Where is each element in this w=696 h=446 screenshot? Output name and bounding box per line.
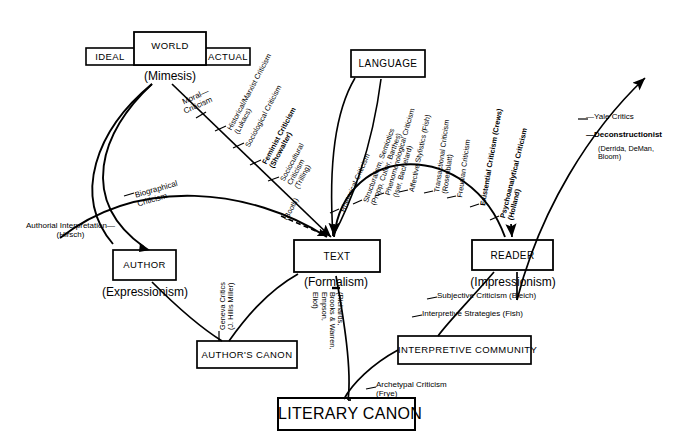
leader-archetypal	[366, 387, 376, 389]
label-deconstructionist-names: (Derrida, DeMan, Bloom)	[598, 145, 654, 161]
literary-canon-box-label: LITERARY CANON	[278, 405, 415, 423]
authors-canon-box-label: AUTHOR'S CANON	[197, 350, 297, 361]
leader-subjective	[427, 297, 437, 299]
label-archetypal-criticism: Archetypal Criticism (Frye)	[376, 381, 447, 399]
reader-box-label: READER	[472, 250, 553, 261]
world-to-author-arc	[92, 84, 152, 244]
interpretive-community-box-label: INTERPRETIVE COMMUNITY	[398, 345, 531, 356]
label-interpretive-strategies: Interpretive Strategies (Fish)	[422, 310, 523, 319]
ideal-label: IDEAL	[88, 52, 132, 63]
label-authorial-interpretation: Authorial Interpretation— (Hirsch)	[26, 222, 115, 240]
formalism-label: (Formalism)	[286, 276, 386, 289]
leader-interpretive-strategies	[412, 315, 422, 317]
impressionism-label: (Impressionism)	[452, 276, 574, 289]
diagram-canvas: WORLD IDEAL ACTUAL (Mimesis) LANGUAGE AU…	[0, 0, 696, 446]
label-deconstructionist: —Deconstructionist	[586, 131, 662, 140]
actual-label: ACTUAL	[206, 52, 250, 63]
author-box-label: AUTHOR	[113, 260, 176, 271]
reader-apex-arrow	[511, 224, 512, 237]
label-geneva-critics: Geneva Critics (J. Hillis Miller)	[219, 282, 235, 330]
language-box-label: LANGUAGE	[351, 58, 425, 69]
label-subjective-criticism: Subjective Criticism (Bleich)	[437, 292, 536, 301]
label-yale-critics: —Yale Critics	[586, 113, 634, 122]
label-new-criticism-names: (Richards, Brooks & Warren, Empson, Elio…	[311, 292, 344, 349]
leader-biographical	[124, 193, 134, 196]
mimesis-label: (Mimesis)	[118, 70, 222, 83]
text-box-label: TEXT	[294, 251, 380, 262]
expressionism-label: (Expressionism)	[86, 286, 204, 299]
world-box-label: WORLD	[134, 41, 206, 52]
